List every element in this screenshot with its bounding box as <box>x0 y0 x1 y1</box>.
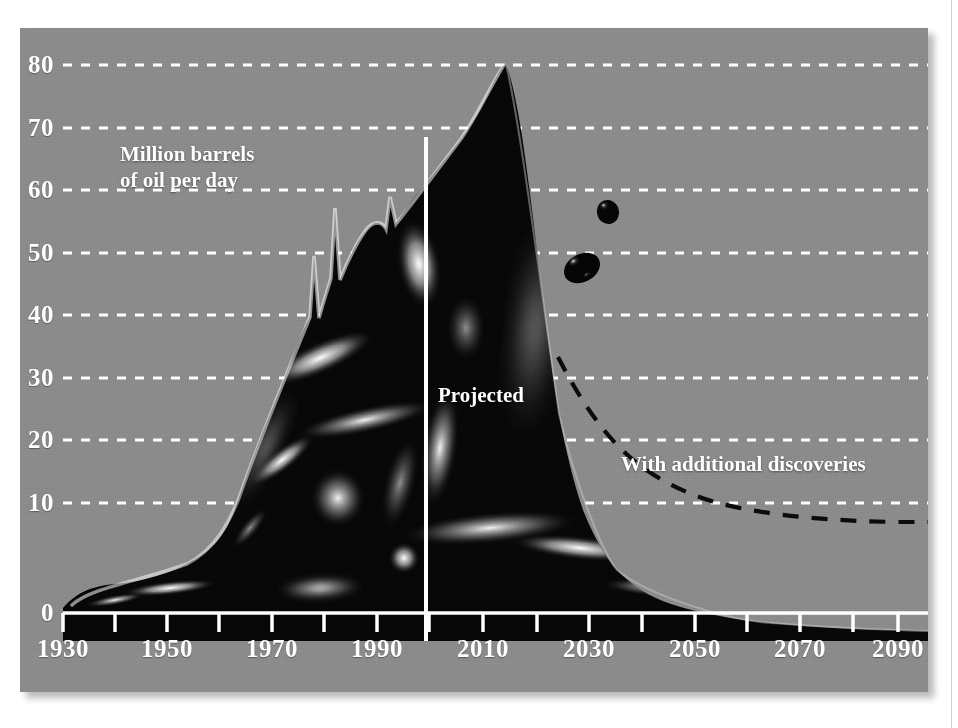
x-tick-label-1970: 1970 <box>227 636 317 661</box>
x-tick-label-2050: 2050 <box>650 636 740 661</box>
plot-area: 80 70 60 50 40 30 20 10 0 1930 1950 1970… <box>20 28 928 692</box>
x-tick-label-2070: 2070 <box>755 636 845 661</box>
chart-panel: 80 70 60 50 40 30 20 10 0 1930 1950 1970… <box>20 28 928 692</box>
y-tick-label-70: 70 <box>20 115 54 140</box>
x-tick-label-2090: 2090 <box>853 636 928 661</box>
axis-caption-line1: Million barrels <box>120 142 254 166</box>
x-tick-label-1950: 1950 <box>122 636 212 661</box>
x-axis-ticks <box>63 613 898 632</box>
y-tick-label-80: 80 <box>20 52 54 77</box>
y-tick-label-0: 0 <box>20 600 54 625</box>
chart-figure: 80 70 60 50 40 30 20 10 0 1930 1950 1970… <box>0 0 958 728</box>
y-tick-label-60: 60 <box>20 177 54 202</box>
with-additional-discoveries-label: With additional discoveries <box>621 452 866 478</box>
x-tick-label-2030: 2030 <box>544 636 634 661</box>
page-column-divider <box>951 0 952 728</box>
projected-label: Projected <box>438 383 524 409</box>
y-tick-label-10: 10 <box>20 490 54 515</box>
y-tick-label-50: 50 <box>20 240 54 265</box>
y-tick-label-20: 20 <box>20 427 54 452</box>
x-tick-label-1930: 1930 <box>20 636 108 661</box>
y-tick-label-40: 40 <box>20 302 54 327</box>
x-tick-label-1990: 1990 <box>332 636 422 661</box>
x-tick-label-2010: 2010 <box>438 636 528 661</box>
x-axis-layer <box>20 28 928 692</box>
y-tick-label-30: 30 <box>20 365 54 390</box>
axis-caption: Million barrelsof oil per day <box>120 142 254 193</box>
axis-caption-line2: of oil per day <box>120 168 238 192</box>
